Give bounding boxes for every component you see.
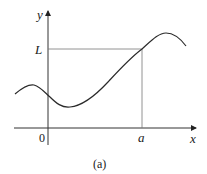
origin-label: 0 (39, 131, 45, 145)
point-label: a (138, 130, 145, 145)
x-axis-label: x (189, 131, 196, 146)
limit-label: L (34, 42, 42, 57)
limit-diagram: y x L a 0 (a) (0, 0, 207, 174)
y-axis-label: y (35, 7, 43, 22)
figure-caption: (a) (93, 157, 106, 171)
